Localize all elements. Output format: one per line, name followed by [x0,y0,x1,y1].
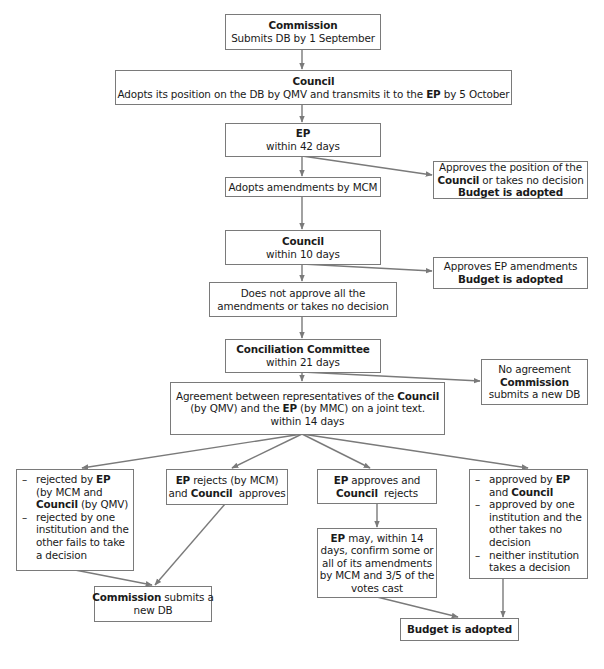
node-title: EP [296,127,310,139]
node-rejected-outcomes: rejected by EP (by MCM and Council (by Q… [16,469,134,571]
node-text: Commission submits a [92,591,214,604]
node-title: Council [282,235,324,247]
node-text: EP may, within 14 [331,532,424,545]
node-text: EP approves and [334,474,421,487]
node-text: Submits DB by 1 September [231,32,375,45]
node-conciliation-committee: Conciliation Committee within 21 days [225,339,381,373]
node-text: Adopts its position on the DB by QMV and… [118,88,510,101]
node-budget-adopted-final: Budget is adopted [400,618,519,641]
node-text: Agreement between representatives of the… [176,390,439,403]
list-item: approved by one institution and the othe… [475,498,583,548]
list-item: neither institution takes a decision [475,549,583,574]
node-council-adopts-position: Council Adopts its position on the DB by… [115,70,512,105]
node-ep-adopts-amendments: Adopts amendments by MCM [225,177,381,197]
node-ep-42-days: EP within 42 days [225,123,381,157]
node-approved-outcomes: approved by EP and Council approved by o… [469,469,588,579]
node-text: No agreement [498,363,571,376]
node-ep-approves-council-rejects: EP approves and Council rejects [317,469,437,504]
result-budget-adopted: Budget is adopted [407,623,512,635]
node-title: Commission [269,19,338,31]
node-title: Conciliation Committee [236,343,369,355]
node-text: within 21 days [266,356,340,369]
arrow-agreement-to-ep-rejects [232,434,302,468]
node-text: Approves the position of the [439,161,582,174]
result-budget-adopted: Budget is adopted [458,186,563,198]
node-text: within 10 days [266,248,340,261]
node-commission-submits: Commission Submits DB by 1 September [225,14,381,50]
node-text: Does not approve all the [241,287,366,300]
node-title: Council [293,75,335,87]
node-ep-rejects-council-approves: EP rejects (by MCM) and Council approves [166,469,288,505]
arrow-council10-to-approves [302,264,432,271]
arrow-agreement-to-approved [302,434,528,468]
arrow-ep-rejects-to-new-db [155,504,225,585]
arrow-ep-may-to-budget [377,597,458,617]
arrow-agreement-to-rejected [82,434,302,468]
node-joint-text-agreement: Agreement between representatives of the… [170,382,445,435]
arrow-rejected-to-new-db [75,570,152,585]
node-council-approves-amendments: Approves EP amendments Budget is adopted [433,257,588,289]
arrow-ep-to-approves-position [302,156,432,175]
list-item: rejected by one institution and the othe… [22,511,129,561]
node-ep-confirms-amendments: EP may, within 14 days, confirm some or … [317,528,437,598]
node-text: Adopts amendments by MCM [229,181,378,194]
arrow-conciliation-to-no-agreement [302,372,480,381]
list-item: approved by EP and Council [475,473,583,498]
node-text: EP rejects (by MCM) [176,474,279,487]
node-no-agreement: No agreement Commission submits a new DB [481,359,588,405]
approved-list: approved by EP and Council approved by o… [475,473,583,574]
node-commission-new-db: Commission submits a new DB [94,586,212,622]
result-budget-adopted: Budget is adopted [458,273,563,285]
node-ep-approves-council-position: Approves the position of the Council or … [433,161,588,199]
node-text: Approves EP amendments [444,260,577,273]
node-council-10-days: Council within 10 days [225,230,381,265]
arrow-agreement-to-ep-approves [302,434,370,468]
node-text: within 42 days [266,140,340,153]
rejected-list: rejected by EP (by MCM and Council (by Q… [22,473,129,561]
node-council-not-approve: Does not approve all the amendments or t… [209,282,397,317]
list-item: rejected by EP (by MCM and Council (by Q… [22,473,129,511]
